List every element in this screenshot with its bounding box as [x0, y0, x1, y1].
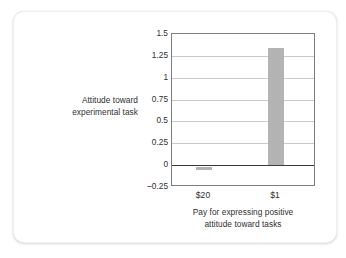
plot-area [171, 33, 315, 186]
y-tick-label-1: 1 [132, 72, 168, 82]
x-tick-label-1-dollar: $1 [245, 190, 305, 200]
zero-baseline [172, 165, 314, 166]
gridline-0_25 [172, 143, 314, 144]
plot-inner [172, 34, 314, 185]
y-axis-title-line-2: experimental task [34, 107, 138, 119]
bar-20-dollars[interactable] [196, 167, 212, 171]
bar-1-dollar[interactable] [268, 48, 284, 165]
x-axis-title-line-1: Pay for expressing positive [165, 207, 321, 219]
y-tick-label-neg0_25: –0.25 [132, 181, 168, 191]
x-axis-title-line-2: attitude toward tasks [165, 219, 321, 231]
gridline-1_25 [172, 56, 314, 57]
y-tick-label-0_25: 0.25 [132, 137, 168, 147]
y-tick-label-0_75: 0.75 [132, 94, 168, 104]
y-tick-label-1_25: 1.25 [132, 50, 168, 60]
gridline-0_75 [172, 100, 314, 101]
y-tick-label-0: 0 [132, 159, 168, 169]
screenshot-root: Attitude toward experimental task 1.5 1.… [0, 0, 346, 258]
x-tick-label-20-dollars: $20 [173, 190, 233, 200]
y-axis-title: Attitude toward experimental task [34, 95, 138, 118]
y-tick-label-1_5: 1.5 [132, 28, 168, 38]
bar-chart-figure: Attitude toward experimental task 1.5 1.… [0, 0, 346, 258]
x-axis-title: Pay for expressing positive attitude tow… [165, 207, 321, 230]
y-axis-title-line-1: Attitude toward [34, 95, 138, 107]
gridline-1 [172, 78, 314, 79]
gridline-0_5 [172, 121, 314, 122]
y-tick-label-0_5: 0.5 [132, 115, 168, 125]
